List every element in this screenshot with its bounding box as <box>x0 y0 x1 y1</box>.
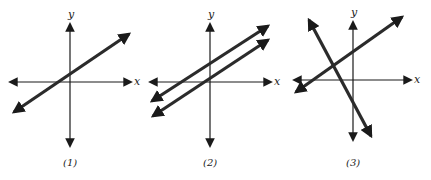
graph-panel-1: xy(1) <box>10 8 141 168</box>
x-axis-label: x <box>414 73 421 86</box>
linear-systems-figure: xy(1)xy(2)xy(3) <box>0 0 431 180</box>
graph-panel-2: xy(2) <box>150 8 281 168</box>
y-axis-label: y <box>350 6 358 19</box>
graph-panel-3: xy(3) <box>294 6 421 168</box>
x-axis-label: x <box>274 75 281 88</box>
panel-caption: (2) <box>203 157 217 168</box>
y-axis-label: y <box>67 8 75 21</box>
panel-caption: (1) <box>63 157 77 168</box>
y-axis-label: y <box>207 8 215 21</box>
graph-line-1 <box>14 34 129 112</box>
x-axis-label: x <box>134 75 141 88</box>
panel-caption: (3) <box>346 157 360 168</box>
